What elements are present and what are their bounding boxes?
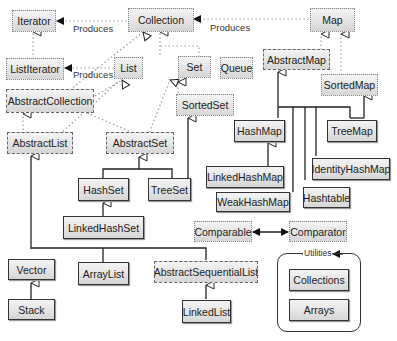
node-linkedhashset: LinkedHashSet xyxy=(63,216,144,239)
node-sortedmap: SortedMap xyxy=(321,74,378,96)
produces-label-map: Produces xyxy=(210,22,250,33)
node-hashset: HashSet xyxy=(78,178,129,201)
node-abstractsequentiallist: AbstractSequentialList xyxy=(154,261,258,283)
node-hashtable: Hashtable xyxy=(303,187,350,208)
produces-label-listiterator: Produces xyxy=(73,69,113,80)
node-iterator: Iterator xyxy=(12,10,56,32)
node-stack: Stack xyxy=(8,299,55,320)
node-comparator: Comparator xyxy=(289,221,347,242)
node-abstractset: AbstractSet xyxy=(106,132,174,154)
node-weakhashmap: WeakHashMap xyxy=(216,192,290,212)
node-linkedhashmap: LinkedHashMap xyxy=(206,166,284,188)
node-collections: Collections xyxy=(289,269,349,291)
node-identityhashmap: IdentityHashMap xyxy=(312,158,390,180)
node-comparable: Comparable xyxy=(194,221,252,242)
utilities-label: Utilities xyxy=(303,248,332,258)
node-listiterator: ListIterator xyxy=(6,58,64,80)
node-queue: Queue xyxy=(220,57,253,79)
node-set: Set xyxy=(178,56,211,78)
node-abstractlist: AbstractList xyxy=(7,132,73,154)
node-treeset: TreeSet xyxy=(148,178,191,201)
node-treemap: TreeMap xyxy=(327,120,377,142)
node-abstractcollection: AbstractCollection xyxy=(6,89,94,113)
node-vector: Vector xyxy=(8,259,55,280)
node-abstractmap: AbstractMap xyxy=(263,49,330,70)
node-sortedset: SortedSet xyxy=(176,94,234,116)
node-arraylist: ArrayList xyxy=(78,262,129,285)
node-collection: Collection xyxy=(128,8,194,32)
node-linkedlist: LinkedList xyxy=(182,300,231,323)
node-list: List xyxy=(114,57,143,79)
node-arrays: Arrays xyxy=(289,299,349,321)
produces-label-iterator: Produces xyxy=(73,23,113,34)
node-hashmap: HashMap xyxy=(234,120,285,142)
node-map: Map xyxy=(310,8,355,32)
